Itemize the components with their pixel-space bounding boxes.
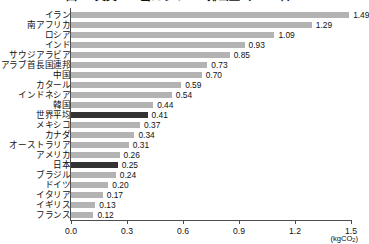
x-tick [71, 220, 72, 224]
category-label: フランス [36, 211, 71, 220]
bar-value-label: 0.12 [97, 211, 113, 220]
x-tick-label: 0.6 [177, 226, 189, 236]
bar [71, 62, 207, 68]
bar-value-label: 0.93 [249, 41, 265, 50]
bar [71, 42, 245, 48]
category-label: アメリカ [36, 151, 71, 160]
category-label: ロシア [45, 31, 71, 40]
y-axis-line [70, 8, 71, 220]
bar [71, 102, 153, 108]
bar-value-label: 0.44 [157, 101, 173, 110]
bar-highlighted [71, 112, 148, 118]
category-label: ドイツ [45, 181, 71, 190]
bar-value-label: 0.24 [120, 171, 136, 180]
bar-value-label: 0.31 [133, 141, 149, 150]
bar [71, 202, 95, 208]
x-tick-label: 1.2 [289, 226, 301, 236]
bar [71, 22, 312, 28]
bar-value-label: 1.49 [353, 11, 369, 20]
bar-value-label: 0.37 [144, 121, 160, 130]
bar [71, 142, 129, 148]
bar [71, 132, 134, 138]
x-tick-label: 0.3 [121, 226, 133, 236]
bar [71, 192, 103, 198]
bar-value-label: 0.54 [176, 91, 192, 100]
bar [71, 152, 120, 158]
x-axis-line [70, 220, 352, 221]
category-label: 韓国 [53, 101, 71, 110]
x-tick [351, 220, 352, 224]
bar [71, 12, 349, 18]
bar-value-label: 0.26 [124, 151, 140, 160]
bar [71, 92, 172, 98]
bar-value-label: 1.09 [278, 31, 294, 40]
bar [71, 182, 108, 188]
bar [71, 32, 274, 38]
bar-value-label: 0.70 [206, 71, 222, 80]
bar-value-label: 0.85 [234, 51, 250, 60]
category-label: イギリス [36, 201, 71, 210]
bar-value-label: 0.17 [107, 191, 123, 200]
category-label: オーストラリア [9, 141, 71, 150]
bar [71, 72, 202, 78]
bar [71, 82, 181, 88]
bar-value-label: 0.34 [138, 131, 154, 140]
x-tick [127, 220, 128, 224]
category-label: サウジアラビア [9, 51, 71, 60]
bar-value-label: 0.41 [152, 111, 168, 120]
category-label: イラン [45, 11, 71, 20]
category-label: ブラジル [36, 171, 71, 180]
bar-value-label: 0.20 [112, 181, 128, 190]
bar-highlighted [71, 162, 118, 168]
chart-title: 図2 実質GDP当たりのCO2排出量（2014年） [0, 0, 364, 2]
bar-value-label: 1.29 [316, 21, 332, 30]
category-label: カタール [36, 81, 71, 90]
bar-value-label: 0.73 [211, 61, 227, 70]
x-tick [183, 220, 184, 224]
unit-suffix: ) [355, 234, 358, 243]
bar [71, 212, 93, 218]
category-label: アラブ首長国連邦 [1, 61, 71, 70]
bar-value-label: 0.25 [122, 161, 138, 170]
category-label: イタリア [36, 191, 71, 200]
category-label: 世界平均 [36, 111, 71, 120]
category-label: 南アフリカ [27, 21, 71, 30]
chart-title-clipped: 図2 実質GDP当たりのCO2排出量（2014年） [0, 0, 364, 2]
category-label: インド [45, 41, 71, 50]
bar-value-label: 0.13 [99, 201, 115, 210]
x-tick-label: 0.9 [233, 226, 245, 236]
bar [71, 122, 140, 128]
category-label: 中国 [53, 71, 71, 80]
category-label: 日本 [53, 161, 71, 170]
bar-row: フランス0.12 [0, 210, 364, 220]
category-label: インドネシア [18, 91, 71, 100]
plot-area: イラン1.49南アフリカ1.29ロシア1.09インド0.93サウジアラビア0.8… [0, 8, 364, 222]
x-tick-label: 0.0 [65, 226, 77, 236]
x-tick [239, 220, 240, 224]
category-label: カナダ [45, 131, 71, 140]
category-label: メキシコ [36, 121, 71, 130]
bar [71, 52, 230, 58]
bar [71, 172, 116, 178]
unit-prefix: (kgCO [330, 234, 352, 243]
x-tick [295, 220, 296, 224]
bar-value-label: 0.59 [185, 81, 201, 90]
x-axis-unit-label: (kgCO2) [330, 234, 358, 244]
